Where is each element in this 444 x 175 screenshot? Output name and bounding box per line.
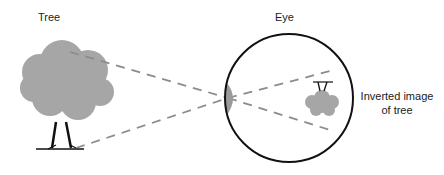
optics-diagram: [0, 0, 444, 175]
inverted-tree-icon: [305, 82, 339, 116]
tree-icon: [20, 40, 114, 149]
